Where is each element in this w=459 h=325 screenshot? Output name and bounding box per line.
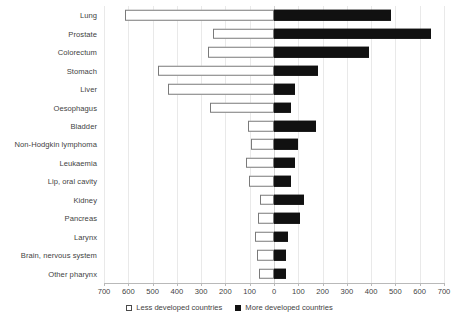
- bar-less-developed: [257, 250, 274, 261]
- axis-tick: [298, 283, 299, 286]
- bar-more-developed: [274, 139, 298, 150]
- bar-more-developed: [274, 65, 318, 76]
- axis-tick: [323, 283, 324, 286]
- bar-more-developed: [274, 158, 295, 169]
- axis-tick: [201, 283, 202, 286]
- category-label: Kidney: [73, 195, 97, 204]
- bar-less-developed: [259, 269, 274, 280]
- bar-more-developed: [274, 102, 291, 113]
- bar-more-developed: [274, 84, 295, 95]
- bar-row: Non-Hodgkin lymphoma: [104, 135, 444, 153]
- category-label: Prostate: [68, 29, 97, 38]
- bar-more-developed: [274, 232, 288, 243]
- category-label: Stomach: [67, 66, 97, 75]
- bar-row: Other pharynx: [104, 265, 444, 283]
- bar-less-developed: [210, 102, 274, 113]
- axis-tick: [420, 283, 421, 286]
- bar-row: Lip, oral cavity: [104, 172, 444, 190]
- bar-row: Leukaemia: [104, 154, 444, 172]
- bar-less-developed: [249, 176, 274, 187]
- axis-tick: [225, 283, 226, 286]
- bar-more-developed: [274, 195, 304, 206]
- bar-more-developed: [274, 213, 300, 224]
- bar-row: Bladder: [104, 117, 444, 135]
- bar-less-developed: [258, 213, 274, 224]
- category-label: Larynx: [74, 232, 97, 241]
- axis-tick-label: 700: [438, 287, 451, 296]
- category-label: Liver: [80, 85, 97, 94]
- category-label: Lung: [80, 11, 97, 20]
- bar-less-developed: [208, 47, 274, 58]
- axis-tick: [177, 283, 178, 286]
- axis-tick: [444, 283, 445, 286]
- bar-less-developed: [248, 121, 274, 132]
- axis-tick-label: 600: [122, 287, 135, 296]
- bar-less-developed: [213, 28, 274, 39]
- axis-tick: [371, 283, 372, 286]
- category-label: Non-Hodgkin lymphoma: [15, 140, 97, 149]
- bar-row: Colorectum: [104, 43, 444, 61]
- bar-more-developed: [274, 121, 316, 132]
- bar-row: Liver: [104, 80, 444, 98]
- axis-tick: [274, 283, 275, 286]
- axis-tick: [104, 283, 105, 286]
- bar-less-developed: [251, 139, 274, 150]
- legend-item-less-developed: Less developed countries: [126, 303, 222, 312]
- axis-tick-label: 300: [195, 287, 208, 296]
- bar-more-developed: [274, 176, 291, 187]
- bar-more-developed: [274, 250, 286, 261]
- axis-tick-label: 200: [219, 287, 232, 296]
- legend-label-more-developed: More developed countries: [245, 303, 332, 312]
- filled-square-icon: [235, 305, 241, 311]
- gridline: [444, 6, 445, 283]
- axis-tick-label: 100: [243, 287, 256, 296]
- bar-more-developed: [274, 269, 286, 280]
- category-label: Oesophagus: [53, 103, 97, 112]
- bar-row: Kidney: [104, 191, 444, 209]
- bar-more-developed: [274, 28, 431, 39]
- axis-tick-label: 0: [272, 287, 276, 296]
- bar-row: Pancreas: [104, 209, 444, 227]
- bar-row: Prostate: [104, 24, 444, 42]
- axis-tick-label: 500: [389, 287, 402, 296]
- axis-tick: [395, 283, 396, 286]
- category-label: Bladder: [70, 122, 97, 131]
- category-label: Pancreas: [65, 214, 97, 223]
- axis-tick-label: 600: [413, 287, 426, 296]
- bar-rows: LungProstateColorectumStomachLiverOesoph…: [104, 6, 444, 283]
- chart-legend: Less developed countries More developed …: [0, 303, 459, 312]
- axis-tick: [250, 283, 251, 286]
- axis-tick: [153, 283, 154, 286]
- category-label: Leukaemia: [59, 158, 97, 167]
- bar-row: Larynx: [104, 228, 444, 246]
- axis-tick-label: 400: [171, 287, 184, 296]
- bar-more-developed: [274, 10, 391, 21]
- bar-less-developed: [246, 158, 274, 169]
- axis-tick: [347, 283, 348, 286]
- axis-tick-label: 100: [292, 287, 305, 296]
- bar-less-developed: [260, 195, 274, 206]
- category-label: Lip, oral cavity: [48, 177, 97, 186]
- category-label: Colorectum: [58, 48, 97, 57]
- axis-tick-label: 300: [341, 287, 354, 296]
- bar-less-developed: [168, 84, 274, 95]
- open-square-icon: [126, 305, 132, 311]
- bar-chart: LungProstateColorectumStomachLiverOesoph…: [0, 0, 459, 325]
- bar-row: Stomach: [104, 61, 444, 79]
- plot-area: LungProstateColorectumStomachLiverOesoph…: [104, 6, 444, 283]
- category-label: Brain, nervous system: [21, 251, 97, 260]
- bar-row: Brain, nervous system: [104, 246, 444, 264]
- axis-tick-label: 500: [146, 287, 159, 296]
- bar-less-developed: [158, 65, 274, 76]
- axis-tick: [128, 283, 129, 286]
- bar-less-developed: [255, 232, 274, 243]
- bar-less-developed: [125, 10, 274, 21]
- axis-tick-label: 700: [98, 287, 111, 296]
- bar-row: Lung: [104, 6, 444, 24]
- axis-tick-label: 400: [365, 287, 378, 296]
- bar-more-developed: [274, 47, 369, 58]
- axis-tick-label: 200: [316, 287, 329, 296]
- legend-label-less-developed: Less developed countries: [136, 303, 222, 312]
- category-label: Other pharynx: [48, 269, 97, 278]
- legend-item-more-developed: More developed countries: [235, 303, 332, 312]
